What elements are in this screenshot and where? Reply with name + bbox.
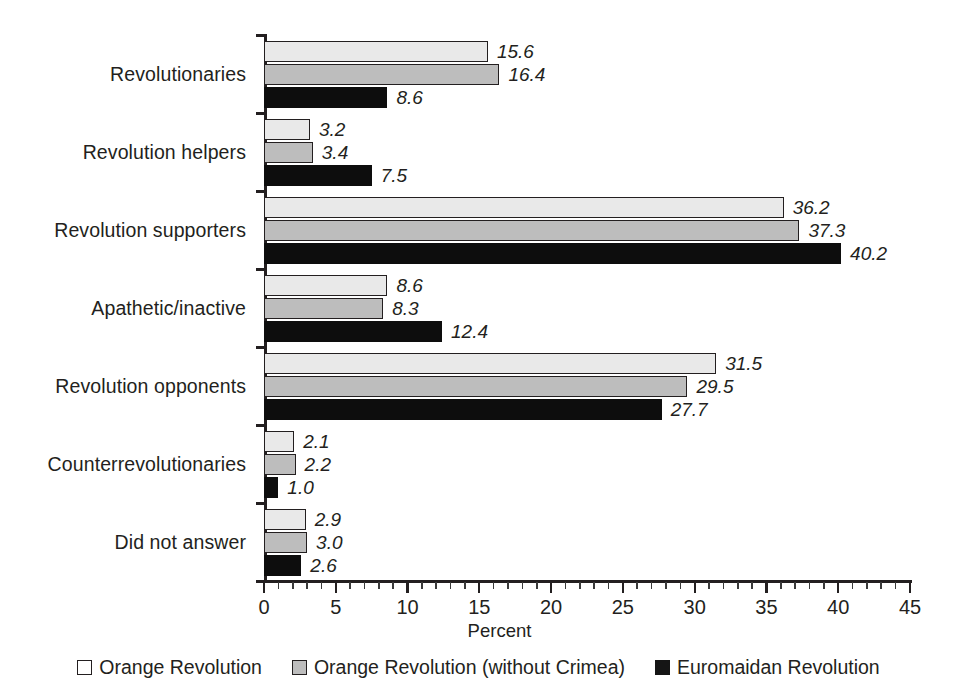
bar-value-label: 8.3 <box>392 298 418 320</box>
bar-value-label: 16.4 <box>508 64 545 86</box>
value-tick-minor <box>751 582 753 589</box>
bar-value-label: 15.6 <box>497 41 534 63</box>
bar <box>264 477 278 498</box>
value-tick-major <box>909 582 911 593</box>
bar <box>264 64 499 85</box>
bar <box>264 555 301 576</box>
bar-value-label: 7.5 <box>381 165 407 187</box>
value-tick-minor <box>292 582 294 589</box>
value-tick-major <box>406 582 408 593</box>
value-tick-major <box>765 582 767 593</box>
value-tick-minor <box>608 582 610 589</box>
legend: Orange RevolutionOrange Revolution (with… <box>0 656 957 679</box>
bar-value-label: 2.6 <box>310 555 336 577</box>
value-tick-minor <box>378 582 380 589</box>
legend-item[interactable]: Orange Revolution <box>77 656 262 679</box>
value-tick-minor <box>321 582 323 589</box>
category-label-text: Revolution opponents <box>0 375 246 398</box>
bar <box>264 220 799 241</box>
bar <box>264 431 294 452</box>
legend-swatch-icon <box>655 660 670 675</box>
legend-label: Orange Revolution (without Crimea) <box>314 656 625 679</box>
value-tick-minor <box>737 582 739 589</box>
bar-value-label: 3.2 <box>319 119 345 141</box>
category-label-text: Did not answer <box>0 531 246 554</box>
bar <box>264 142 313 163</box>
bar <box>264 376 687 397</box>
value-tick-label: 20 <box>540 596 562 619</box>
bar-value-label: 2.1 <box>303 431 329 453</box>
value-axis-line <box>264 580 912 583</box>
value-tick-minor <box>794 582 796 589</box>
value-tick-label: 5 <box>330 596 341 619</box>
value-tick-minor <box>665 582 667 589</box>
legend-swatch-icon <box>292 660 307 675</box>
value-tick-minor <box>435 582 437 589</box>
value-tick-label: 10 <box>396 596 418 619</box>
value-axis-title-text: Percent <box>468 620 532 641</box>
category-label-text: Apathetic/inactive <box>0 297 246 320</box>
value-tick-label: 40 <box>827 596 849 619</box>
value-tick-minor <box>708 582 710 589</box>
value-tick-minor <box>493 582 495 589</box>
value-tick-minor <box>593 582 595 589</box>
value-tick-minor <box>780 582 782 589</box>
value-axis-title: Percent <box>0 620 957 642</box>
bar-value-label: 37.3 <box>808 220 845 242</box>
bar <box>264 509 306 530</box>
bar <box>264 298 383 319</box>
bar-value-label: 40.2 <box>850 243 887 265</box>
bar-value-label: 12.4 <box>451 321 488 343</box>
legend-label: Orange Revolution <box>99 656 262 679</box>
value-tick-minor <box>349 582 351 589</box>
value-tick-label: 45 <box>899 596 921 619</box>
category-label: Revolution opponents <box>0 347 246 425</box>
value-tick-minor <box>306 582 308 589</box>
bar <box>264 41 488 62</box>
bar-value-label: 2.9 <box>315 509 341 531</box>
category-label-text: Counterrevolutionaries <box>0 453 246 476</box>
value-tick-minor <box>823 582 825 589</box>
value-tick-minor <box>421 582 423 589</box>
value-tick-major <box>263 582 265 593</box>
category-label: Did not answer <box>0 503 246 581</box>
legend-item[interactable]: Euromaidan Revolution <box>655 656 880 679</box>
value-tick-major <box>837 582 839 593</box>
value-tick-minor <box>450 582 452 589</box>
bar <box>264 87 387 108</box>
value-tick-minor <box>866 582 868 589</box>
bar-value-label: 8.6 <box>396 275 422 297</box>
value-tick-minor <box>852 582 854 589</box>
value-tick-major <box>694 582 696 593</box>
bar <box>264 275 387 296</box>
bar-value-label: 2.2 <box>305 454 331 476</box>
category-axis-labels: RevolutionariesRevolution helpersRevolut… <box>0 35 246 581</box>
plot-area: 15.616.48.63.23.47.536.237.340.28.68.312… <box>264 35 910 581</box>
value-tick-label: 35 <box>755 596 777 619</box>
value-tick-minor <box>464 582 466 589</box>
category-label-text: Revolutionaries <box>0 63 246 86</box>
category-label: Revolutionaries <box>0 35 246 113</box>
value-tick-minor <box>536 582 538 589</box>
value-tick-minor <box>636 582 638 589</box>
value-tick-major <box>478 582 480 593</box>
bar-value-label: 36.2 <box>793 197 830 219</box>
bar <box>264 197 784 218</box>
value-tick-minor <box>809 582 811 589</box>
value-tick-minor <box>565 582 567 589</box>
legend-item[interactable]: Orange Revolution (without Crimea) <box>292 656 625 679</box>
bar <box>264 165 372 186</box>
bar <box>264 353 716 374</box>
value-tick-label: 30 <box>684 596 706 619</box>
bar-value-label: 31.5 <box>725 353 762 375</box>
category-label: Counterrevolutionaries <box>0 425 246 503</box>
value-tick-major <box>335 582 337 593</box>
value-tick-minor <box>880 582 882 589</box>
category-label: Revolution supporters <box>0 191 246 269</box>
category-label-text: Revolution helpers <box>0 141 246 164</box>
value-tick-label: 25 <box>612 596 634 619</box>
bar <box>264 532 307 553</box>
category-label: Revolution helpers <box>0 113 246 191</box>
value-tick-minor <box>723 582 725 589</box>
value-tick-minor <box>392 582 394 589</box>
